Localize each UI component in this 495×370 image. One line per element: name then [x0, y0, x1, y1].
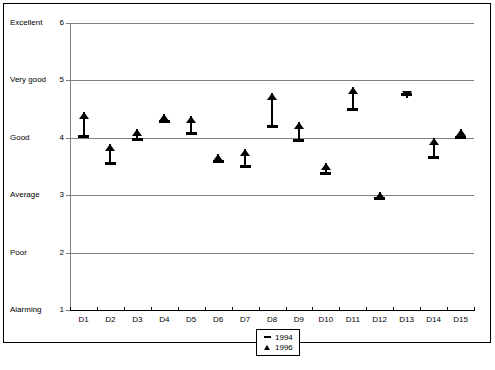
x-axis-line — [70, 310, 475, 311]
marker-1994-d7 — [240, 165, 251, 168]
marker-1994-d9 — [293, 139, 304, 142]
marker-1994-d10 — [320, 172, 331, 175]
x-axis-label-d10: D10 — [311, 315, 341, 324]
x-tick — [232, 307, 233, 311]
x-axis-label-d1: D1 — [69, 315, 99, 324]
marker-1996-d6 — [213, 154, 223, 161]
triangle-marker-icon — [261, 345, 273, 350]
chart-legend: 1994 1996 — [256, 329, 300, 356]
marker-1994-d1 — [78, 135, 89, 138]
marker-1996-d2 — [105, 144, 115, 151]
legend-label: 1996 — [273, 343, 293, 352]
legend-item-1996: 1996 — [261, 342, 293, 352]
marker-1994-d11 — [347, 108, 358, 111]
x-tick — [474, 307, 475, 311]
gridline-2 — [70, 253, 474, 254]
gridline-3 — [70, 195, 474, 196]
marker-1994-d2 — [105, 162, 116, 165]
marker-1996-d10 — [321, 163, 331, 170]
marker-1996-d5 — [186, 116, 196, 123]
chart-page: { "chart_data": { "type": "scatter", "ti… — [0, 0, 495, 370]
plot-area — [70, 23, 474, 310]
x-axis-label-d4: D4 — [149, 315, 179, 324]
y-tick-label: 4 — [50, 134, 64, 142]
x-axis-label-d9: D9 — [284, 315, 314, 324]
x-axis-label-d11: D11 — [338, 315, 368, 324]
marker-1996-d12 — [375, 192, 385, 199]
x-axis-label-d13: D13 — [392, 315, 422, 324]
marker-1996-d15 — [456, 129, 466, 136]
dash-marker-icon — [261, 336, 273, 338]
x-axis-label-d12: D12 — [365, 315, 395, 324]
y-axis-tick-labels: 123456 — [44, 4, 64, 344]
gridline-6 — [70, 23, 474, 24]
x-tick — [339, 307, 340, 311]
x-tick — [178, 307, 179, 311]
x-tick — [70, 307, 71, 311]
x-axis-label-d6: D6 — [203, 315, 233, 324]
marker-1996-d13 — [402, 91, 412, 98]
x-axis-label-d15: D15 — [446, 315, 476, 324]
y-tick-label: 2 — [50, 249, 64, 257]
gridline-5 — [70, 80, 474, 81]
marker-1996-d1 — [79, 112, 89, 119]
legend-label: 1994 — [273, 333, 293, 342]
y-tick-label: 1 — [50, 306, 64, 314]
marker-1996-d8 — [267, 93, 277, 100]
gridline-4 — [70, 138, 474, 139]
x-axis-label-d3: D3 — [122, 315, 152, 324]
marker-1994-d3 — [132, 138, 143, 141]
x-tick — [151, 307, 152, 311]
marker-1994-d15 — [455, 136, 466, 139]
x-tick — [97, 307, 98, 311]
marker-1996-d11 — [348, 87, 358, 94]
x-tick — [124, 307, 125, 311]
x-tick — [205, 307, 206, 311]
y-tick-label: 5 — [50, 76, 64, 84]
marker-1996-d7 — [240, 149, 250, 156]
marker-1994-d8 — [267, 125, 278, 128]
y-tick-label: 3 — [50, 191, 64, 199]
x-tick — [420, 307, 421, 311]
x-tick — [393, 307, 394, 311]
x-tick — [259, 307, 260, 311]
marker-1996-d9 — [294, 122, 304, 129]
x-axis-label-d2: D2 — [95, 315, 125, 324]
x-axis-label-d8: D8 — [257, 315, 287, 324]
x-tick — [286, 307, 287, 311]
marker-1994-d5 — [186, 132, 197, 135]
chart-frame: ExcellentVery goodGoodAveragePoorAlarmin… — [3, 3, 491, 343]
x-axis-label-d14: D14 — [419, 315, 449, 324]
x-tick — [312, 307, 313, 311]
marker-1996-d4 — [159, 114, 169, 121]
y-tick-label: 6 — [50, 19, 64, 27]
x-tick — [366, 307, 367, 311]
marker-1996-d3 — [132, 129, 142, 136]
x-axis-label-d7: D7 — [230, 315, 260, 324]
legend-item-1994: 1994 — [261, 332, 293, 342]
marker-1996-d14 — [429, 138, 439, 145]
marker-1994-d14 — [428, 156, 439, 159]
x-tick — [447, 307, 448, 311]
x-axis-label-d5: D5 — [176, 315, 206, 324]
